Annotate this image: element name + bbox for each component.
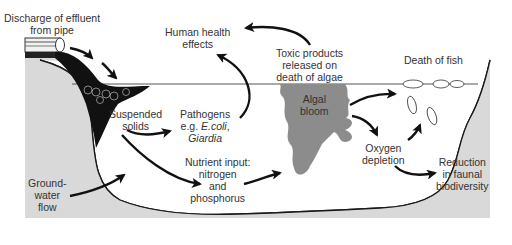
label-death-of-fish: Death of fish — [404, 54, 463, 66]
arrow-toxic-health — [246, 27, 310, 45]
label-algal-bloom: Algal bloom — [300, 93, 329, 117]
label-nutrient-input: Nutrient input: nitrogen and phosphorus — [185, 156, 250, 204]
label-reduction: Reduction in faunal biodiversity — [436, 156, 489, 192]
label-human-health: Human health effects — [165, 26, 230, 50]
label-pathogens: Pathogens e.g. E.coli, Giardia — [180, 108, 230, 144]
label-suspended-solids: Suspended solids — [109, 108, 162, 132]
effluent-diagram — [0, 0, 512, 245]
label-discharge: Discharge of effluent from pipe — [4, 12, 100, 36]
label-toxic-products: Toxic products released on death of alga… — [276, 47, 343, 83]
label-oxygen-depletion: Oxygen depletion — [362, 142, 405, 166]
label-groundwater: Ground- water flow — [28, 177, 67, 213]
